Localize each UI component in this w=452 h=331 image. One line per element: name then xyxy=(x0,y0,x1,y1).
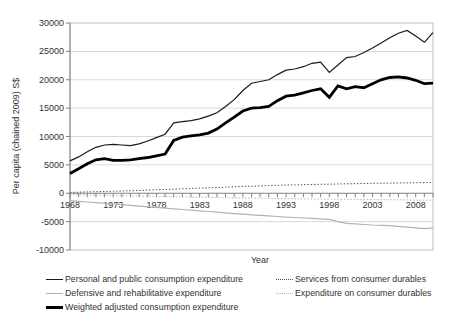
x-tick-label: 1988 xyxy=(233,200,253,210)
y-tick-label: -10000 xyxy=(36,245,64,255)
legend-column-1: Personal and public consumption expendit… xyxy=(46,272,243,314)
x-tick-label: 1993 xyxy=(276,200,296,210)
y-tick-label: 20000 xyxy=(39,75,64,85)
legend-column-2: Services from consumer durables Expendit… xyxy=(276,272,431,300)
thin-line-marker-icon xyxy=(46,279,63,280)
legend-item-weighted: Weighted adjusted consumption expenditur… xyxy=(46,300,243,314)
y-axis-title: Per capita (chained 2009) S$ xyxy=(11,78,21,195)
thick-line-marker-icon xyxy=(46,306,63,309)
legend-item-durables: Expenditure on consumer durables xyxy=(276,286,431,300)
legend-label-durables: Expenditure on consumer durables xyxy=(295,288,431,298)
legend-item-defensive: Defensive and rehabilitative expenditure xyxy=(46,286,243,300)
x-tick-label: 1983 xyxy=(190,200,210,210)
y-tick-label: -5000 xyxy=(41,217,64,227)
series-line xyxy=(70,77,433,173)
chart-canvas: 300002500020000150001000050000-5000-1000… xyxy=(0,0,452,268)
x-axis-title: Year xyxy=(251,255,269,265)
x-tick-label: 1978 xyxy=(146,200,166,210)
legend-item-services: Services from consumer durables xyxy=(276,272,431,286)
dark-dotted-line-marker-icon xyxy=(276,279,293,280)
y-tick-label: 15000 xyxy=(39,103,64,113)
series-line xyxy=(70,183,433,193)
legend-label-weighted: Weighted adjusted consumption expenditur… xyxy=(65,302,238,312)
legend-item-personal: Personal and public consumption expendit… xyxy=(46,272,243,286)
legend-label-services: Services from consumer durables xyxy=(295,274,426,284)
legend-label-personal: Personal and public consumption expendit… xyxy=(65,274,243,284)
y-tick-label: 0 xyxy=(59,188,64,198)
series-line xyxy=(70,30,433,161)
x-tick-label: 1973 xyxy=(103,200,123,210)
gray-line-marker-icon xyxy=(46,293,63,294)
legend-label-defensive: Defensive and rehabilitative expenditure xyxy=(65,288,222,298)
gray-dotted-line-marker-icon xyxy=(276,293,293,294)
y-tick-label: 25000 xyxy=(39,46,64,56)
y-tick-label: 5000 xyxy=(44,160,64,170)
x-tick-label: 1998 xyxy=(319,200,339,210)
y-tick-label: 30000 xyxy=(39,18,64,28)
chart-figure: 300002500020000150001000050000-5000-1000… xyxy=(0,0,452,331)
x-tick-label: 2008 xyxy=(406,200,426,210)
plot-area: 300002500020000150001000050000-5000-1000… xyxy=(36,18,433,255)
y-tick-label: 10000 xyxy=(39,132,64,142)
x-tick-label: 2003 xyxy=(362,200,382,210)
